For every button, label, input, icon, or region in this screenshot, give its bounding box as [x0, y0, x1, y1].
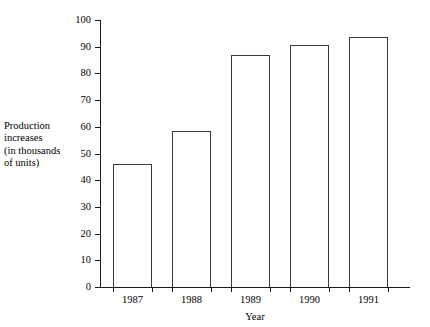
y-axis-tick-label: 30	[81, 200, 92, 213]
x-axis-tick	[172, 287, 173, 292]
y-axis-tick-label: 20	[81, 227, 92, 240]
y-axis-title-line-1: Production	[4, 120, 82, 132]
x-axis-tick-label: 1991	[358, 293, 379, 306]
bar-chart: Production increases (in thousands of un…	[0, 0, 430, 327]
x-axis-tick	[290, 287, 291, 292]
y-axis-tick-label: 40	[81, 173, 92, 186]
x-axis-tick-label: 1988	[181, 293, 202, 306]
bar	[349, 37, 388, 287]
y-axis-tick-label: 0	[86, 280, 91, 293]
y-axis-tick: 10	[95, 260, 101, 261]
x-axis-tick-label: 1989	[240, 293, 261, 306]
y-axis-tick-label: 70	[81, 93, 92, 106]
x-axis-tick	[388, 287, 389, 292]
x-axis-tick-label: 1990	[299, 293, 320, 306]
y-axis-tick-label: 10	[81, 253, 92, 266]
y-axis-tick: 50	[95, 154, 101, 155]
x-axis-tick	[152, 287, 153, 292]
x-axis-tick	[231, 287, 232, 292]
x-axis-tick	[113, 287, 114, 292]
y-axis-tick: 80	[95, 73, 101, 74]
y-axis-tick: 40	[95, 180, 101, 181]
x-axis-tick	[270, 287, 271, 292]
y-axis-title-line-4: of units)	[4, 157, 82, 169]
x-axis-line	[100, 287, 410, 288]
y-axis-tick-label: 100	[75, 13, 91, 26]
y-axis-title: Production increases (in thousands of un…	[4, 120, 82, 170]
x-axis-tick	[211, 287, 212, 292]
x-axis-tick	[349, 287, 350, 292]
plot-area: 0102030405060708090100 19871988198919901…	[100, 20, 410, 287]
y-axis-tick: 90	[95, 47, 101, 48]
y-axis-tick: 100	[95, 20, 101, 21]
y-axis-tick: 70	[95, 100, 101, 101]
bar	[113, 164, 152, 287]
y-axis-tick: 60	[95, 127, 101, 128]
y-axis-tick: 20	[95, 234, 101, 235]
y-axis-tick-label: 50	[81, 147, 92, 160]
y-axis-tick: 0	[95, 287, 101, 288]
y-axis-tick: 30	[95, 207, 101, 208]
bar	[172, 131, 211, 287]
x-axis-tick	[329, 287, 330, 292]
bar	[290, 45, 329, 287]
y-axis-title-line-2: increases	[4, 132, 82, 144]
y-axis-tick-label: 60	[81, 120, 92, 133]
y-axis-title-line-3: (in thousands	[4, 145, 82, 157]
x-axis-tick-label: 1987	[122, 293, 143, 306]
x-axis-title: Year	[100, 310, 410, 323]
y-axis-tick-label: 90	[81, 40, 92, 53]
bar	[231, 55, 270, 287]
y-axis-tick-label: 80	[81, 66, 92, 79]
